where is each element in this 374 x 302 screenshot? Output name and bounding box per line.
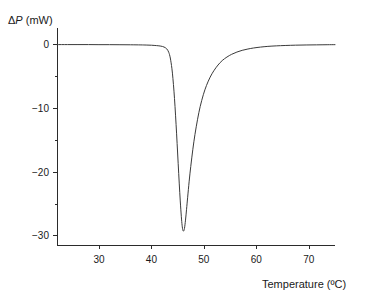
y-tick-label: 0 xyxy=(8,38,49,49)
axis-spines xyxy=(58,28,336,246)
axis-spine-path xyxy=(58,28,336,246)
x-tick-label: 30 xyxy=(93,254,104,265)
data-series-group xyxy=(57,45,335,232)
x-tick-label: 60 xyxy=(251,254,262,265)
x-tick-label: 40 xyxy=(146,254,157,265)
y-tick-label: −20 xyxy=(8,166,49,177)
x-tick-label: 70 xyxy=(303,254,314,265)
x-tick-label: 50 xyxy=(198,254,209,265)
y-axis-ticks xyxy=(53,45,57,236)
chart-figure: ΔP (mW) Temperature (ºC) 0−10−20−30 3040… xyxy=(0,0,374,302)
plot-area xyxy=(0,0,374,302)
y-tick-label: −30 xyxy=(8,230,49,241)
y-tick-label: −10 xyxy=(8,102,49,113)
series-line-heat-flow xyxy=(57,45,335,232)
